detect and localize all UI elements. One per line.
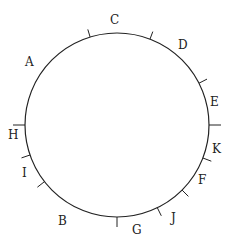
label-E: E xyxy=(210,95,219,109)
circle-diagram: C D A E K F J G B I H xyxy=(0,0,229,241)
tick-mark-6 xyxy=(182,190,188,196)
tick-marks xyxy=(13,29,221,227)
tick-mark-2 xyxy=(150,32,153,39)
label-J: J xyxy=(169,211,176,225)
tick-mark-9 xyxy=(37,182,44,188)
label-G: G xyxy=(132,223,142,237)
label-C: C xyxy=(110,13,119,27)
tick-mark-10 xyxy=(22,155,31,158)
tick-mark-7 xyxy=(157,208,161,216)
label-H: H xyxy=(8,128,18,142)
label-D: D xyxy=(178,38,188,52)
tick-mark-5 xyxy=(203,158,211,161)
tick-mark-1 xyxy=(88,29,90,37)
label-A: A xyxy=(24,55,34,69)
point-labels: C D A E K F J G B I H xyxy=(8,13,222,237)
label-I: I xyxy=(22,166,27,180)
label-K: K xyxy=(212,142,222,156)
tick-mark-3 xyxy=(199,79,207,83)
label-F: F xyxy=(198,173,206,187)
main-circle xyxy=(25,33,209,217)
label-B: B xyxy=(58,214,67,228)
